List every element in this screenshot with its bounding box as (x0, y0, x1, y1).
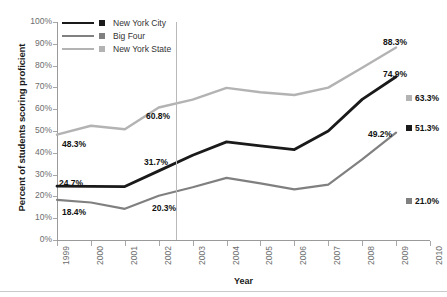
legend-item[interactable]: New York State (62, 42, 197, 55)
series-line (57, 48, 396, 135)
x-axis-tick (227, 241, 228, 246)
legend-item-label: New York City (113, 18, 166, 28)
edge-marker-label: 21.0% (406, 196, 439, 206)
x-axis-tick (396, 241, 397, 246)
data-annotation: 48.3% (62, 139, 86, 149)
y-tick-label: 10% (18, 213, 52, 222)
edge-marker-value: 63.3% (415, 93, 439, 103)
y-axis-tick (53, 109, 57, 110)
edge-marker-swatch-icon (406, 198, 412, 204)
y-tick-label: 60% (18, 104, 52, 113)
y-axis-tick (53, 218, 57, 219)
x-tick-label: 2000 (95, 246, 105, 276)
edge-marker-swatch-icon (406, 95, 412, 101)
y-axis-tick (53, 22, 57, 23)
x-axis-tick (91, 241, 92, 246)
legend-swatch-icon (99, 20, 105, 26)
x-tick-label: 1999 (61, 246, 71, 276)
data-annotation: 31.7% (144, 157, 168, 167)
x-axis-tick (328, 241, 329, 246)
legend-line-icon (62, 35, 94, 37)
y-axis-tick (53, 196, 57, 197)
legend-line-icon (62, 22, 94, 24)
x-axis-tick (159, 241, 160, 246)
y-axis-tick-labels: 0%10%20%30%40%50%60%70%80%90%100% (16, 0, 52, 297)
chart-legend: New York CityBig FourNew York State (62, 16, 197, 55)
legend-line-icon (62, 48, 94, 50)
y-tick-label: 80% (18, 61, 52, 70)
legend-item[interactable]: New York City (62, 16, 197, 29)
legend-swatch-icon (99, 46, 105, 52)
edge-marker-value: 51.3% (415, 123, 439, 133)
x-axis-tick (430, 241, 431, 246)
data-annotation: 20.3% (152, 203, 176, 213)
series-line (57, 133, 396, 209)
y-tick-label: 20% (18, 191, 52, 200)
x-tick-label: 2008 (366, 246, 376, 276)
edge-marker-label: 51.3% (406, 123, 439, 133)
x-axis-line (57, 240, 430, 241)
bottom-divider (0, 291, 447, 292)
legend-item-label: New York State (113, 44, 171, 54)
x-tick-label: 2006 (298, 246, 308, 276)
y-tick-label: 100% (18, 17, 52, 26)
y-axis-tick (53, 66, 57, 67)
data-annotation: 49.2% (368, 129, 392, 139)
chart-screenshot: Percent of students scoring proficient 0… (0, 0, 447, 297)
legend-swatch-icon (99, 33, 105, 39)
x-tick-label: 2002 (163, 246, 173, 276)
y-axis-tick (53, 240, 57, 241)
y-tick-label: 70% (18, 82, 52, 91)
y-tick-label: 50% (18, 126, 52, 135)
y-axis-tick (53, 131, 57, 132)
y-axis-tick (53, 87, 57, 88)
x-axis-tick (362, 241, 363, 246)
x-tick-label: 2010 (434, 246, 444, 276)
edge-marker-swatch-icon (406, 125, 412, 131)
x-tick-label: 2001 (129, 246, 139, 276)
x-axis-tick (193, 241, 194, 246)
legend-item[interactable]: Big Four (62, 29, 197, 42)
data-annotation: 74.9% (383, 69, 407, 79)
x-tick-label: 2007 (332, 246, 342, 276)
x-axis-tick (260, 241, 261, 246)
y-axis-tick (53, 175, 57, 176)
y-tick-label: 90% (18, 39, 52, 48)
x-axis-title: Year (57, 276, 430, 286)
x-tick-label: 2005 (264, 246, 274, 276)
x-tick-label: 2004 (231, 246, 241, 276)
edge-marker-label: 63.3% (406, 93, 439, 103)
x-axis-tick (57, 241, 58, 246)
data-annotation: 18.4% (62, 207, 86, 217)
y-axis-tick (53, 44, 57, 45)
x-tick-label: 2003 (197, 246, 207, 276)
y-axis-tick (53, 153, 57, 154)
x-axis-tick (294, 241, 295, 246)
legend-item-label: Big Four (113, 31, 145, 41)
x-axis-tick (125, 241, 126, 246)
x-tick-label: 2009 (400, 246, 410, 276)
y-tick-label: 0% (18, 235, 52, 244)
y-tick-label: 40% (18, 148, 52, 157)
data-annotation: 60.8% (146, 111, 170, 121)
data-annotation: 88.3% (383, 37, 407, 47)
series-line (57, 77, 396, 187)
data-annotation: 24.7% (59, 178, 83, 188)
edge-marker-value: 21.0% (415, 196, 439, 206)
y-tick-label: 30% (18, 170, 52, 179)
